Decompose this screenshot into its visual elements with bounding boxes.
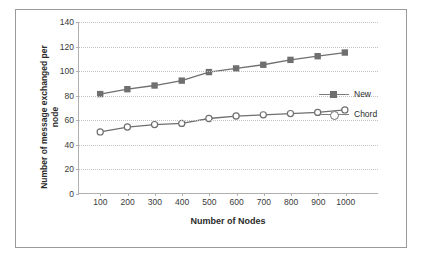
y-axis-tick-label: 40 [65,140,74,150]
circle-marker [319,109,349,119]
data-point-new [179,77,185,83]
square-marker [319,89,349,99]
x-axis-tick-label: 700 [257,197,271,207]
data-point-chord [233,113,239,119]
data-point-chord [260,112,266,118]
legend-item-chord: Chord [319,104,393,124]
legend-label-new: New [354,89,371,99]
legend-label-chord: Chord [354,109,377,119]
x-axis-tick-label: 600 [230,197,244,207]
data-point-chord [124,124,130,130]
y-axis-tick-label: 80 [65,91,74,101]
gridline [79,22,378,23]
x-axis-tick-label: 300 [148,197,162,207]
data-point-chord [97,129,103,135]
x-axis-tick [128,193,129,196]
y-axis-tick-label: 0 [69,189,74,199]
y-axis-tick-label: 120 [60,42,74,52]
x-axis-title: Number of Nodes [78,216,378,226]
x-axis-tick [209,193,210,196]
data-point-new [314,53,320,59]
chart-plot-frame: Number of message exchanged per node 020… [15,9,407,248]
x-axis-tick-label: 1000 [336,197,355,207]
data-point-new [342,49,348,55]
x-axis-tick-label: 500 [202,197,216,207]
data-point-chord [151,122,157,128]
chart-container: Number of message exchanged per node 020… [0,0,422,263]
x-axis-tick-label: 100 [93,197,107,207]
y-axis-tick [76,22,79,23]
series-line-new [100,53,345,95]
y-axis-tick [76,120,79,121]
x-axis-tick-label: 400 [175,197,189,207]
x-axis-tick [100,193,101,196]
y-axis-tick-label: 20 [65,164,74,174]
x-axis-tick [155,193,156,196]
gridline [79,145,378,146]
x-axis-tick-label: 800 [284,197,298,207]
y-axis-tick [76,169,79,170]
data-point-new [287,57,293,63]
x-axis-tick [318,193,319,196]
chart-legend: New Chord [319,84,393,124]
y-axis-tick [76,71,79,72]
y-axis-tick [76,194,79,195]
gridline [79,169,378,170]
data-point-new [124,86,130,92]
y-axis-tick [76,47,79,48]
data-point-chord [287,111,293,117]
data-point-new [151,82,157,88]
gridline [79,47,378,48]
x-axis-tick [264,193,265,196]
x-axis-tick [182,193,183,196]
data-point-new [260,62,266,68]
x-axis-tick-label: 900 [311,197,325,207]
y-axis-title: Number of message exchanged per node [39,37,61,197]
x-axis-tick [291,193,292,196]
y-axis-tick-label: 60 [65,115,74,125]
gridline [79,71,378,72]
y-axis-tick [76,145,79,146]
x-axis-tick [346,193,347,196]
x-axis-tick [237,193,238,196]
y-axis-tick [76,96,79,97]
legend-item-new: New [319,84,393,104]
y-axis-tick-label: 100 [60,66,74,76]
x-axis-tick-label: 200 [120,197,134,207]
y-axis-tick-label: 140 [60,17,74,27]
